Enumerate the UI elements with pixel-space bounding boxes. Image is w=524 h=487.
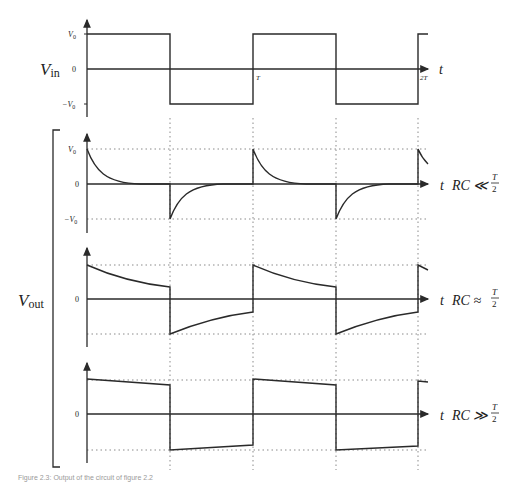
panel3-t-label: t — [440, 293, 445, 308]
panel4-frac-num: T — [492, 402, 498, 412]
vin-t-label: t — [439, 62, 444, 77]
panel2-rc-condition: RC ≪ — [451, 178, 489, 193]
vertical-guide-lines — [170, 118, 418, 470]
vout-bracket: Vout — [18, 130, 60, 467]
panel-rc-approx: 0 t RC ≈ T 2 — [75, 248, 499, 347]
panel2-zero-label: 0 — [75, 180, 79, 189]
panel-rc-much-less: V0 0 −V0 t RC ≪ T 2 — [64, 134, 499, 233]
panel4-rc-condition: RC ≫ — [451, 408, 488, 423]
panel2-frac-den: 2 — [492, 184, 497, 194]
tick-label-T: T — [256, 74, 261, 82]
vin-v0-label: V0 — [68, 30, 76, 40]
panel3-rc-condition: RC ≈ — [451, 293, 481, 308]
vin-neg-v0-label: −V0 — [62, 100, 75, 110]
panel2-v0-label: V0 — [68, 145, 76, 155]
rc-circuit-waveform-figure: Vin V0 0 −V0 T 2T t Vout V0 0 −V0 t RC ≪… — [0, 0, 524, 487]
panel-vin: Vin V0 0 −V0 T 2T t — [40, 20, 444, 117]
panel4-frac-den: 2 — [492, 414, 497, 424]
panel3-frac-den: 2 — [492, 299, 497, 309]
panel4-level-lines — [87, 380, 428, 450]
panel2-neg-v0-label: −V0 — [64, 215, 77, 225]
panel3-frac-num: T — [492, 287, 498, 297]
vout-bracket-line — [53, 130, 60, 467]
vout-label: Vout — [18, 291, 44, 311]
panel2-frac-num: T — [492, 172, 498, 182]
figure-caption: Figure 2.3: Output of the circuit of fig… — [18, 474, 153, 481]
panel3-zero-label: 0 — [75, 295, 79, 304]
panel-rc-much-greater: 0 t RC ≫ T 2 — [75, 363, 499, 463]
vin-zero-label: 0 — [72, 65, 76, 74]
panel4-t-label: t — [440, 408, 445, 423]
tick-label-2T: 2T — [420, 74, 429, 82]
panel4-zero-label: 0 — [75, 410, 79, 419]
panel2-t-label: t — [440, 178, 445, 193]
vin-label: Vin — [40, 60, 60, 80]
